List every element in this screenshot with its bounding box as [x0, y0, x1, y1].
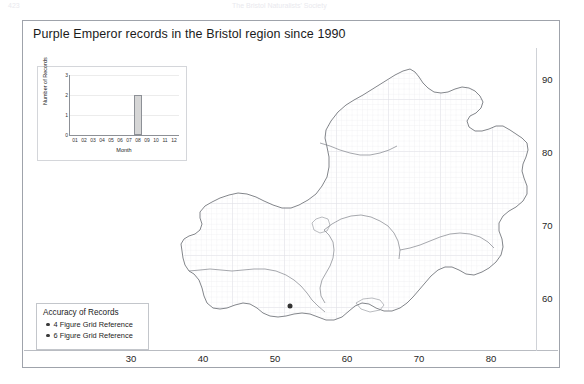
inset-x-tick-07: 07 [126, 137, 132, 143]
inset-x-tick-02: 02 [81, 137, 87, 143]
data-point[interactable] [288, 304, 293, 309]
inset-bar-chart: Number of Records Month 3 2 1 0 01 02 03… [37, 66, 187, 161]
inset-bar-08[interactable] [134, 95, 142, 135]
legend-dot-icon [46, 334, 50, 338]
legend-dot-icon [46, 323, 50, 327]
chart-title: Purple Emperor records in the Bristol re… [33, 27, 346, 41]
y-tick-80: 80 [542, 147, 553, 158]
x-axis-line [24, 350, 558, 351]
inset-y-tick-1: 1 [65, 112, 68, 118]
legend-title: Accuracy of Records [43, 308, 142, 317]
inset-x-axis-title: Month [116, 147, 131, 153]
x-tick-70: 70 [414, 353, 425, 364]
inset-x-tick-08: 08 [135, 137, 141, 143]
inset-x-tick-04: 04 [99, 137, 105, 143]
inset-gridline-2 [70, 95, 179, 96]
inset-y-tick-2: 2 [65, 92, 68, 98]
inset-y-axis-title: Number of Records [42, 57, 48, 105]
x-tick-60: 60 [342, 353, 353, 364]
inset-x-tick-11: 11 [162, 137, 167, 143]
inset-x-tick-09: 09 [144, 137, 150, 143]
inset-x-tick-01: 01 [72, 137, 78, 143]
page-header-center: The Bristol Naturalists' Society [232, 0, 327, 12]
y-tick-90: 90 [542, 74, 553, 85]
legend: Accuracy of Records 4 Figure Grid Refere… [36, 303, 149, 350]
inset-y-tick-0: 0 [65, 132, 68, 138]
page-header-strip: 423 The Bristol Naturalists' Society [0, 0, 584, 14]
y-tick-60: 60 [542, 293, 553, 304]
x-tick-80: 80 [486, 353, 497, 364]
inset-plot-area: 3 2 1 0 01 02 03 04 05 06 07 08 09 10 11… [69, 75, 179, 136]
inset-x-tick-05: 05 [108, 137, 114, 143]
y-tick-70: 70 [542, 220, 553, 231]
inset-x-tick-10: 10 [153, 137, 159, 143]
legend-item-4-figure[interactable]: 4 Figure Grid Reference [43, 320, 142, 329]
inset-x-tick-03: 03 [90, 137, 96, 143]
legend-item-label: 6 Figure Grid Reference [54, 331, 133, 340]
y-axis-line [536, 48, 537, 351]
page-header-left: 423 [8, 0, 20, 12]
inset-x-tick-12: 12 [171, 137, 177, 143]
x-tick-50: 50 [270, 353, 281, 364]
chart-frame: Purple Emperor records in the Bristol re… [22, 20, 560, 368]
inset-gridline-3 [70, 75, 179, 76]
inset-x-tick-06: 06 [117, 137, 123, 143]
inset-y-tick-3: 3 [65, 72, 68, 78]
legend-item-6-figure[interactable]: 6 Figure Grid Reference [43, 331, 142, 340]
legend-item-label: 4 Figure Grid Reference [54, 320, 133, 329]
x-tick-40: 40 [198, 353, 209, 364]
inset-gridline-1 [70, 115, 179, 116]
x-tick-30: 30 [126, 353, 137, 364]
